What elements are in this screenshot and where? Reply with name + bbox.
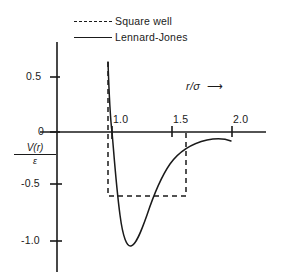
- x-axis-title-text: r/σ: [186, 80, 200, 92]
- x-tick-label-2-0: 2.0: [233, 114, 248, 125]
- legend-item-lennard-jones: Lennard-Jones: [72, 29, 222, 45]
- legend-solid-line-icon: [72, 32, 112, 42]
- y-tick-label-0-5: 0.5: [26, 71, 41, 82]
- x-tick-label-1-5: 1.5: [173, 114, 188, 125]
- y-axis-title-numerator: V(r): [14, 142, 56, 155]
- right-arrow-icon: ⟶: [207, 80, 223, 92]
- legend-dashed-line-icon: [72, 16, 112, 26]
- legend-label-square-well: Square well: [115, 15, 172, 27]
- series-square-well: [108, 62, 186, 196]
- legend-item-square-well: Square well: [72, 13, 222, 29]
- x-tick-label-1-0: 1.0: [113, 114, 128, 125]
- x-axis-title: r/σ⟶: [186, 80, 223, 93]
- chart-figure: Square well Lennard-Jones 0.5 0 -0.5 -1.…: [0, 0, 289, 279]
- y-tick-label-neg-1-0: -1.0: [21, 235, 40, 246]
- legend: Square well Lennard-Jones: [72, 13, 222, 45]
- y-axis-title: V(r) ε: [14, 142, 56, 167]
- y-axis-title-denominator: ε: [14, 155, 56, 167]
- y-tick-label-neg-0-5: -0.5: [21, 178, 40, 189]
- y-tick-label-0: 0: [38, 126, 44, 137]
- legend-label-lennard-jones: Lennard-Jones: [115, 31, 188, 43]
